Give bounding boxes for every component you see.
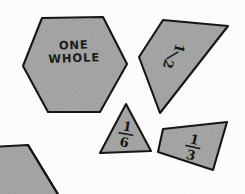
hexagon-label-line-2: WHOLE bbox=[48, 50, 100, 66]
pattern-block-figure: ONE WHOLE 1 2 1 6 bbox=[0, 0, 245, 194]
figure-canvas: ONE WHOLE 1 2 1 6 bbox=[0, 0, 245, 194]
